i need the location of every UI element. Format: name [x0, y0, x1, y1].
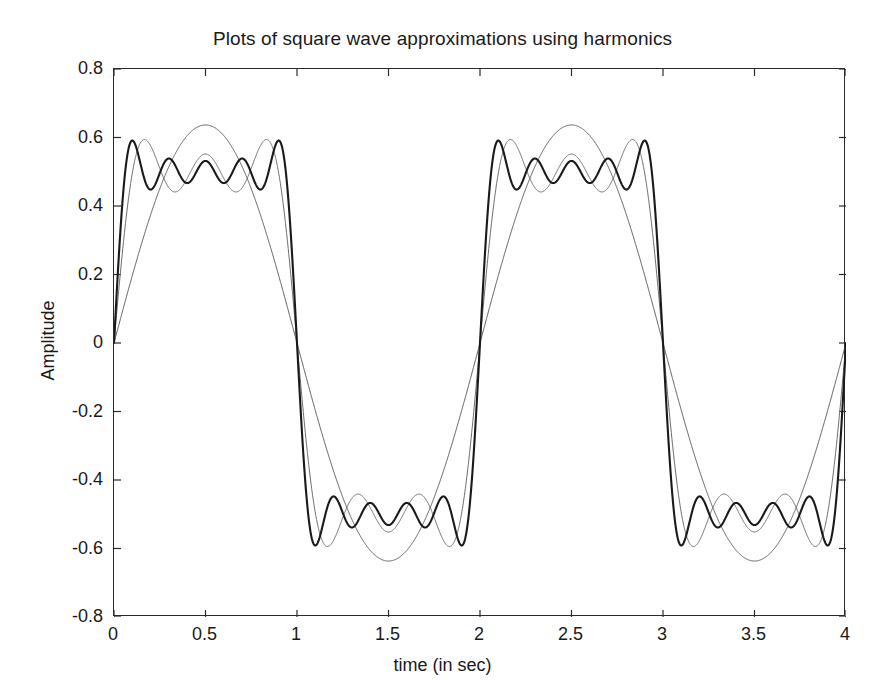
y-axis-label: Amplitude [38, 261, 59, 421]
figure-canvas: Plots of square wave approximations usin… [0, 0, 885, 697]
x-tick-label: 3.5 [714, 625, 794, 643]
x-tick-label: 0.5 [165, 625, 245, 643]
x-tick-label: 2 [439, 625, 519, 643]
x-axis-label: time (in sec) [0, 655, 885, 676]
curve-5-harmonics [114, 141, 846, 546]
x-tick-label: 1 [256, 625, 336, 643]
x-tick-label: 2.5 [531, 625, 611, 643]
chart-title: Plots of square wave approximations usin… [0, 28, 885, 50]
x-tick-label: 4 [805, 625, 885, 643]
plot-svg [114, 69, 846, 617]
y-axis-label-wrapper: Amplitude [30, 68, 60, 616]
data-curves [114, 125, 846, 561]
x-tick-label: 1.5 [348, 625, 428, 643]
plot-area [113, 68, 845, 616]
x-tick-label: 0 [73, 625, 153, 643]
x-tick-label: 3 [622, 625, 702, 643]
